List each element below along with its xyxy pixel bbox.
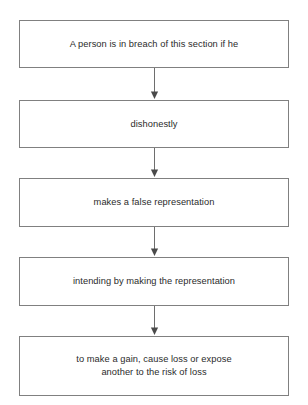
- flowchart-node-2-label: dishonestly: [122, 118, 185, 131]
- flowchart-node-3: makes a false representation: [19, 178, 289, 227]
- flowchart-node-4: intending by making the representation: [19, 257, 289, 306]
- flowchart-node-1-label: A person is in breach of this section if…: [62, 38, 247, 51]
- arrow-down-icon-1: [148, 68, 161, 100]
- flowchart-node-4-label: intending by making the representation: [65, 275, 243, 288]
- arrow-down-icon-4: [148, 306, 161, 336]
- arrow-down-icon-2: [148, 148, 161, 178]
- flowchart-node-5: to make a gain, cause loss or expose ano…: [19, 336, 289, 396]
- flowchart-node-1: A person is in breach of this section if…: [19, 20, 289, 68]
- flowchart-node-3-label: makes a false representation: [86, 196, 223, 209]
- flowchart-node-2: dishonestly: [19, 100, 289, 148]
- arrow-down-icon-3: [148, 227, 161, 257]
- flowchart-node-5-label: to make a gain, cause loss or expose ano…: [68, 353, 239, 379]
- flowchart-diagram: A person is in breach of this section if…: [0, 0, 308, 405]
